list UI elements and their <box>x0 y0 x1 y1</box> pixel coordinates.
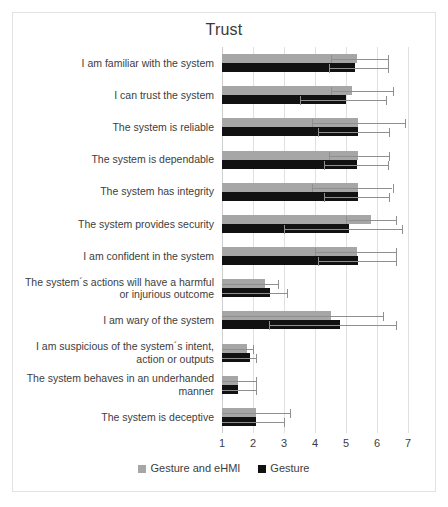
error-bar-cap <box>405 119 406 128</box>
legend-item[interactable]: Gesture and eHMI <box>138 462 240 474</box>
chart-row <box>222 272 408 304</box>
error-bar <box>269 325 396 326</box>
error-bar-cap <box>396 257 397 266</box>
chart-row <box>222 337 408 369</box>
chart-row <box>222 208 408 240</box>
error-bar-cap <box>389 128 390 137</box>
x-tick-5: 5 <box>343 437 349 449</box>
chart-title: Trust <box>13 21 435 39</box>
legend-label: Gesture <box>270 462 309 474</box>
error-bar-cap <box>389 193 390 202</box>
category-label: I am confident in the system <box>14 240 214 272</box>
error-bar <box>346 220 396 221</box>
error-bar-cap <box>284 418 285 427</box>
error-bar <box>312 123 405 124</box>
x-tick-1: 1 <box>219 437 225 449</box>
error-bar-cap <box>318 257 319 266</box>
error-bar <box>222 316 383 317</box>
error-bar-cap <box>386 96 387 105</box>
chart-row <box>222 369 408 401</box>
legend-label: Gesture and eHMI <box>150 462 240 474</box>
x-tick-6: 6 <box>374 437 380 449</box>
error-bar <box>318 261 396 262</box>
error-bar-cap <box>256 377 257 386</box>
plot-area: I am familiar with the systemI can trust… <box>222 47 408 433</box>
chart-legend: Gesture and eHMIGesture <box>13 462 435 474</box>
category-label: I am wary of the system <box>14 304 214 336</box>
category-label: The system has integrity <box>14 176 214 208</box>
error-bar-cap <box>269 321 270 330</box>
error-bar-cap <box>290 409 291 418</box>
x-tick-4: 4 <box>312 437 318 449</box>
chart-row <box>222 401 408 433</box>
error-bar-cap <box>287 289 288 298</box>
error-bar <box>318 132 389 133</box>
error-bar <box>329 156 389 157</box>
error-bar-cap <box>383 312 384 321</box>
error-bar-cap <box>318 128 319 137</box>
error-bar <box>222 422 284 423</box>
error-bar <box>222 358 256 359</box>
error-bar <box>312 188 393 189</box>
error-bar <box>284 229 402 230</box>
error-bar <box>222 284 278 285</box>
legend-item[interactable]: Gesture <box>258 462 309 474</box>
error-bar-cap <box>256 354 257 363</box>
error-bar-cap <box>278 280 279 289</box>
error-bar-cap <box>396 216 397 225</box>
error-bar-cap <box>393 87 394 96</box>
error-bar <box>222 381 256 382</box>
error-bar-cap <box>396 248 397 257</box>
error-bar <box>331 59 388 60</box>
chart-row <box>222 79 408 111</box>
error-bar-cap <box>300 96 301 105</box>
error-bar-cap <box>329 64 330 73</box>
x-tick-3: 3 <box>281 437 287 449</box>
chart-row <box>222 240 408 272</box>
category-label: The system´s actions will have a harmful… <box>14 272 214 304</box>
chart-row <box>222 47 408 79</box>
category-label: The system behaves in an underhanded man… <box>14 369 214 401</box>
gridline-7 <box>408 47 409 433</box>
category-label: I am suspicious of the system´s intent, … <box>14 337 214 369</box>
error-bar <box>329 68 388 69</box>
error-bar-cap <box>284 225 285 234</box>
chart-row <box>222 144 408 176</box>
error-bar <box>324 165 388 166</box>
error-bar-cap <box>253 345 254 354</box>
x-tick-2: 2 <box>250 437 256 449</box>
x-tick-7: 7 <box>405 437 411 449</box>
x-axis-tick-labels: 1234567 <box>222 437 408 453</box>
category-label: The system is reliable <box>14 111 214 143</box>
category-label: The system is deceptive <box>14 401 214 433</box>
chart-row <box>222 304 408 336</box>
error-bar-cap <box>256 386 257 395</box>
error-bar-cap <box>402 225 403 234</box>
error-bar-cap <box>324 161 325 170</box>
error-bar-cap <box>396 321 397 330</box>
error-bar-cap <box>388 161 389 170</box>
error-bar-cap <box>389 152 390 161</box>
error-bar-cap <box>324 193 325 202</box>
error-bar-cap <box>393 184 394 193</box>
error-bar <box>324 197 389 198</box>
error-bar <box>300 100 387 101</box>
category-label: I am familiar with the system <box>14 47 214 79</box>
error-bar <box>222 293 287 294</box>
error-bar <box>315 252 396 253</box>
chart-row <box>222 111 408 143</box>
error-bar <box>222 413 290 414</box>
legend-swatch-icon <box>258 465 266 473</box>
category-label: I can trust the system <box>14 79 214 111</box>
legend-swatch-icon <box>138 465 146 473</box>
error-bar-cap <box>388 64 389 73</box>
chart-row <box>222 176 408 208</box>
error-bar <box>222 349 253 350</box>
category-label: The system provides security <box>14 208 214 240</box>
error-bar <box>222 390 256 391</box>
error-bar <box>331 91 393 92</box>
error-bar-cap <box>388 55 389 64</box>
chart-container: Trust I am familiar with the systemI can… <box>12 12 436 492</box>
category-label: The system is dependable <box>14 144 214 176</box>
